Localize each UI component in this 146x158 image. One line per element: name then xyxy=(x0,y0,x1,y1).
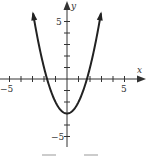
x-axis-label: x xyxy=(137,65,142,75)
graph: −5 5 5 −5 x y xyxy=(0,0,146,158)
caption-fragment xyxy=(84,154,98,156)
curve-arrow-left-icon xyxy=(31,11,37,20)
curve-arrow-right-icon xyxy=(97,11,103,20)
y-axis-label: y xyxy=(70,1,77,11)
caption-fragment xyxy=(42,154,56,156)
y-min-label: −5 xyxy=(51,132,65,142)
y-axis-arrow-icon xyxy=(64,1,71,10)
x-max-label: 5 xyxy=(121,84,127,94)
x-axis-arrow-icon xyxy=(137,76,146,83)
y-max-label: 5 xyxy=(56,17,62,27)
x-min-label: −5 xyxy=(0,84,14,94)
